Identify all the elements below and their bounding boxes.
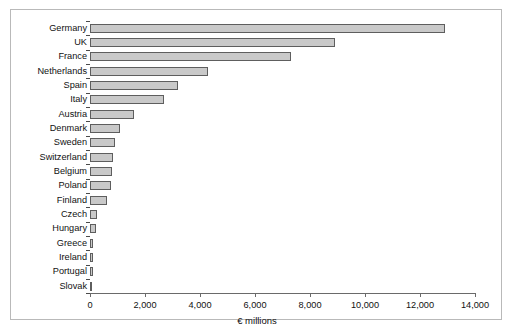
y-axis-tick (86, 50, 90, 51)
category-label: Switzerland (15, 153, 87, 162)
y-axis-tick (86, 121, 90, 122)
x-axis-line (90, 293, 476, 294)
bar-czech (90, 210, 97, 219)
category-label: Germany (15, 24, 87, 33)
x-axis-tick (90, 293, 91, 297)
category-label: Ireland (15, 253, 87, 262)
bar-belgium (90, 167, 112, 176)
category-label: Spain (15, 81, 87, 90)
x-axis-tick (255, 293, 256, 297)
category-label: UK (15, 38, 87, 47)
x-axis-tick-label: 4,000 (189, 300, 212, 310)
y-axis-tick (86, 279, 90, 280)
bar-hungary (90, 224, 96, 233)
y-axis-tick (86, 150, 90, 151)
category-label: Hungary (15, 224, 87, 233)
bar-poland (90, 181, 111, 190)
y-axis-tick (86, 207, 90, 208)
x-axis-tick (145, 293, 146, 297)
y-axis-tick (86, 222, 90, 223)
y-axis-tick (86, 64, 90, 65)
category-label: Austria (15, 110, 87, 119)
y-axis-tick (86, 164, 90, 165)
y-axis-tick (86, 250, 90, 251)
bar-netherlands (90, 67, 208, 76)
category-label: Portugal (15, 267, 87, 276)
y-axis-tick (86, 193, 90, 194)
x-axis-title: € millions (11, 315, 503, 326)
x-axis-tick (365, 293, 366, 297)
bar-austria (90, 110, 134, 119)
bar-slovak (90, 282, 92, 291)
category-label: Finland (15, 196, 87, 205)
x-axis-tick (200, 293, 201, 297)
x-axis-tick (475, 293, 476, 297)
category-label: Greece (15, 239, 87, 248)
x-axis-tick-label: 2,000 (134, 300, 157, 310)
y-axis-tick (86, 107, 90, 108)
x-axis-tick (420, 293, 421, 297)
bar-denmark (90, 124, 120, 133)
y-axis-tick (86, 21, 90, 22)
bar-ireland (90, 253, 93, 262)
bar-switzerland (90, 153, 113, 162)
y-axis-tick (86, 236, 90, 237)
category-label: Slovak (15, 282, 87, 291)
x-axis-tick (310, 293, 311, 297)
y-axis-tick (86, 136, 90, 137)
y-axis-tick (86, 179, 90, 180)
category-label: Poland (15, 181, 87, 190)
x-axis-tick-label: 14,000 (461, 300, 489, 310)
y-axis-tick (86, 265, 90, 266)
category-label: Italy (15, 95, 87, 104)
x-axis-tick-label: 0 (87, 300, 92, 310)
chart-figure-frame: GermanyUKFranceNetherlandsSpainItalyAust… (10, 9, 502, 320)
category-label: Sweden (15, 138, 87, 147)
y-axis-tick (86, 78, 90, 79)
bar-finland (90, 196, 107, 205)
category-label: France (15, 52, 87, 61)
y-axis-tick (86, 35, 90, 36)
category-label: Netherlands (15, 67, 87, 76)
category-label: Belgium (15, 167, 87, 176)
category-label: Czech (15, 210, 87, 219)
x-axis-tick-label: 6,000 (244, 300, 267, 310)
y-axis-tick (86, 93, 90, 94)
bar-uk (90, 38, 335, 47)
x-axis-tick-label: 12,000 (406, 300, 434, 310)
bar-italy (90, 95, 164, 104)
x-axis-tick-label: 8,000 (299, 300, 322, 310)
bar-portugal (90, 267, 93, 276)
x-axis-tick-label: 10,000 (351, 300, 379, 310)
category-label: Denmark (15, 124, 87, 133)
bar-spain (90, 81, 178, 90)
bar-germany (90, 24, 445, 33)
bar-greece (90, 239, 93, 248)
bar-sweden (90, 138, 115, 147)
bar-chart-plot-area: GermanyUKFranceNetherlandsSpainItalyAust… (11, 10, 503, 321)
bar-france (90, 52, 291, 61)
